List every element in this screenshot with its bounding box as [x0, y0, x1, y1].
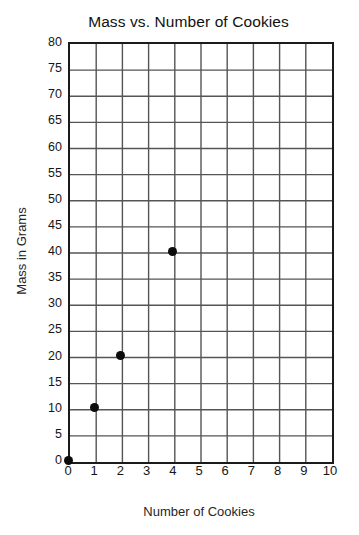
y-axis-tick-label: 15	[22, 376, 62, 388]
y-axis-tick-label: 10	[22, 402, 62, 414]
y-axis-tick-label: 80	[22, 36, 62, 48]
y-axis-tick-label: 70	[22, 88, 62, 100]
y-axis-tick-label: 75	[22, 62, 62, 74]
data-point	[90, 403, 99, 412]
y-axis-tick-label: 60	[22, 141, 62, 153]
plot-area	[68, 42, 334, 464]
data-point	[168, 247, 177, 256]
y-axis-tick-label: 20	[22, 350, 62, 362]
x-axis-tick-label: 10	[315, 464, 345, 478]
grid-lines	[70, 44, 332, 462]
y-axis-tick-label: 65	[22, 114, 62, 126]
y-axis-tick-label: 5	[22, 428, 62, 440]
chart-figure: Mass vs. Number of Cookies 0510152025303…	[0, 0, 359, 535]
y-axis-title: Mass in Grams	[14, 171, 29, 331]
x-axis-title: Number of Cookies	[68, 504, 330, 519]
data-point	[116, 351, 125, 360]
chart-title: Mass vs. Number of Cookies	[0, 12, 359, 31]
data-point	[64, 456, 73, 465]
